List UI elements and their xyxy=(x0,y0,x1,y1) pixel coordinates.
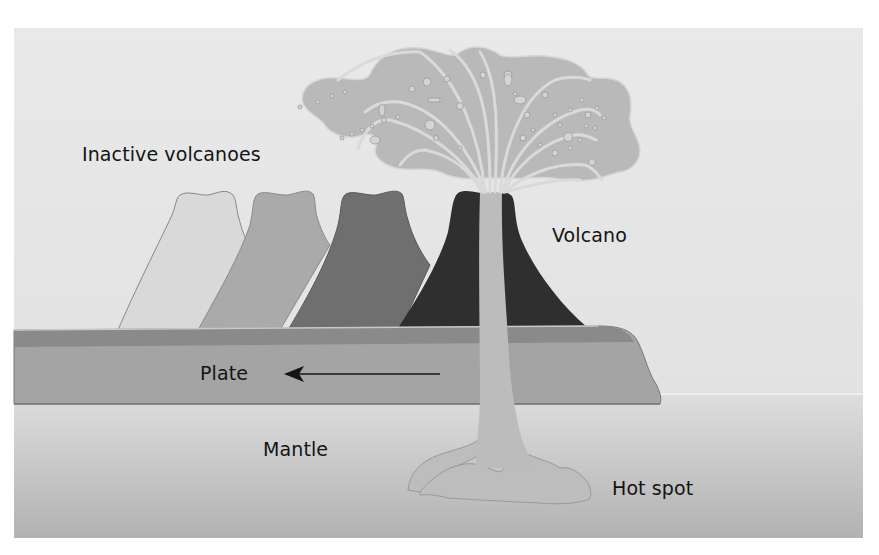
label-hot-spot: Hot spot xyxy=(612,477,693,499)
label-plate: Plate xyxy=(200,362,248,384)
label-volcano: Volcano xyxy=(552,224,627,246)
label-inactive-volcanoes: Inactive volcanoes xyxy=(82,143,261,165)
hot-spot-diagram: Inactive volcanoes Volcano Plate Mantle … xyxy=(0,0,879,555)
diagram-canvas xyxy=(0,0,879,555)
label-mantle: Mantle xyxy=(263,438,328,460)
